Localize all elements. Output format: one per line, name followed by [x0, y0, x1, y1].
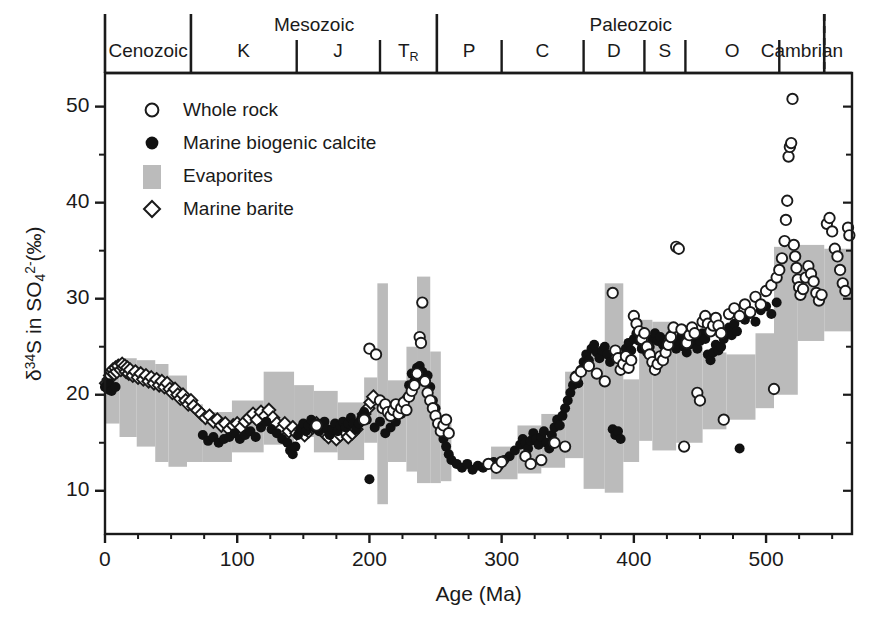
- y-tick-label: 20: [66, 382, 89, 403]
- data-point: [600, 376, 610, 386]
- data-point: [777, 253, 787, 263]
- y-axis-delta: δ: [22, 369, 45, 381]
- data-point: [774, 265, 784, 275]
- x-axis-title: Age (Ma): [436, 582, 522, 606]
- data-point: [607, 288, 617, 298]
- y-tick-label: 30: [66, 286, 89, 307]
- data-point: [827, 226, 837, 236]
- data-point: [824, 213, 834, 223]
- data-point: [689, 328, 699, 338]
- data-point: [840, 286, 850, 296]
- data-point: [808, 276, 818, 286]
- data-point: [526, 459, 536, 469]
- data-point: [732, 326, 742, 336]
- data-point: [756, 299, 766, 309]
- data-point: [371, 349, 381, 359]
- period-label-cambrian: Cambrian: [761, 41, 843, 60]
- y-axis-mass-number: 34: [22, 354, 38, 369]
- era-label-mesozoic: Mesozoic: [274, 15, 354, 34]
- data-point: [616, 434, 626, 444]
- data-point: [786, 138, 796, 148]
- period-label-main: T: [398, 40, 410, 61]
- data-point: [782, 196, 792, 206]
- legend-label-marine-barite: Marine barite: [183, 199, 294, 218]
- y-tick-label: 50: [66, 94, 89, 115]
- x-tick-label: 0: [99, 548, 111, 569]
- legend-marker-open-circle: [146, 104, 159, 117]
- data-point: [359, 415, 369, 425]
- y-tick-label: 40: [66, 190, 89, 211]
- y-tick-label: 10: [66, 478, 89, 499]
- period-label-sub: R: [410, 50, 419, 64]
- period-label-k: K: [237, 41, 250, 60]
- sulfur-isotope-chart: [0, 0, 878, 622]
- data-point: [555, 420, 565, 430]
- data-point: [787, 94, 797, 104]
- evaporite-band: [623, 379, 639, 462]
- data-point: [745, 307, 755, 317]
- period-label-d: D: [607, 41, 621, 60]
- data-point: [416, 338, 426, 348]
- data-point: [375, 417, 385, 427]
- data-point: [409, 380, 419, 390]
- data-point: [401, 405, 411, 415]
- data-point: [735, 444, 745, 454]
- period-label-s: S: [658, 41, 671, 60]
- x-tick-label: 500: [749, 548, 784, 569]
- geologic-timescale: [105, 14, 852, 73]
- data-point: [639, 328, 649, 338]
- data-point: [766, 309, 776, 319]
- legend-marker-gray-square: [143, 165, 161, 189]
- y-axis-sub4: 4: [32, 274, 48, 282]
- data-point: [111, 382, 121, 392]
- data-point: [798, 284, 808, 294]
- data-point: [769, 384, 779, 394]
- data-point: [790, 251, 800, 261]
- data-point: [781, 215, 791, 225]
- data-point: [695, 395, 705, 405]
- era-label-cenozoic: Cenozoic: [108, 41, 187, 60]
- evaporite-band: [605, 283, 624, 492]
- data-point: [816, 290, 826, 300]
- data-point: [311, 420, 321, 430]
- data-point: [789, 240, 799, 250]
- data-point: [626, 355, 636, 365]
- legend-label-evaporites: Evaporites: [183, 166, 273, 185]
- x-tick-label: 200: [352, 548, 387, 569]
- data-point: [536, 455, 546, 465]
- data-point: [750, 317, 760, 327]
- legend-label-whole-rock: Whole rock: [183, 100, 278, 119]
- y-axis-species: S in SO: [22, 282, 45, 354]
- x-tick-label: 300: [484, 548, 519, 569]
- evaporite-band: [726, 354, 755, 419]
- data-point: [441, 415, 451, 425]
- legend-markers: [143, 104, 161, 217]
- y-axis-title: δ34S in SO42-(‰): [22, 226, 48, 381]
- legend-marker-open-diamond: [144, 201, 160, 217]
- evaporite-band: [377, 283, 388, 504]
- data-point: [734, 311, 744, 321]
- data-point: [364, 474, 374, 484]
- era-label-paleozoic: Paleozoic: [590, 15, 672, 34]
- period-label-j: J: [333, 41, 343, 60]
- data-point: [420, 376, 430, 386]
- y-axis-charge: 2-: [22, 261, 38, 273]
- data-point: [560, 441, 570, 451]
- period-label-c: C: [536, 41, 550, 60]
- data-point: [251, 432, 261, 442]
- data-point: [496, 457, 506, 467]
- data-point: [444, 428, 454, 438]
- legend-label-marine-biogenic-calcite: Marine biogenic calcite: [183, 133, 376, 152]
- data-point: [290, 442, 300, 452]
- y-axis-permil: (‰): [22, 226, 45, 261]
- evaporite-band: [755, 333, 774, 408]
- legend-marker-filled-circle: [146, 137, 159, 150]
- x-tick-label: 400: [616, 548, 651, 569]
- data-point: [716, 328, 726, 338]
- data-point: [549, 438, 559, 448]
- data-point: [679, 441, 689, 451]
- data-point: [719, 415, 729, 425]
- period-label-tr: TR: [398, 41, 419, 63]
- data-point: [417, 297, 427, 307]
- data-point: [791, 263, 801, 273]
